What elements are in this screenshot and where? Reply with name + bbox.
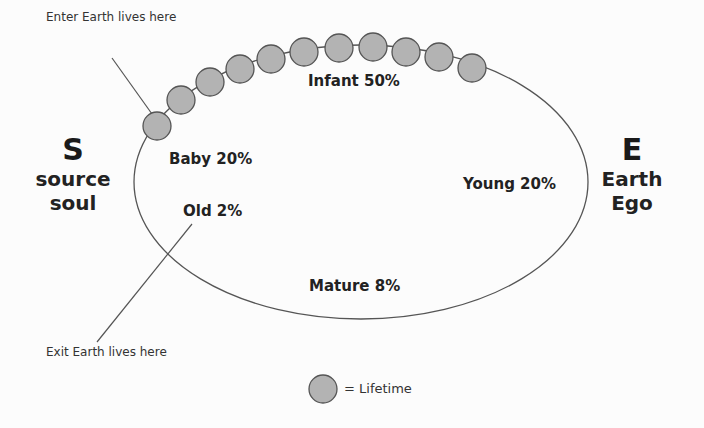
earth-letter: E xyxy=(592,132,672,167)
source-soul-pole: S source soul xyxy=(28,132,118,215)
legend-circle-icon xyxy=(309,375,337,403)
lifetime-circle xyxy=(257,45,285,73)
stage-old: Old 2% xyxy=(183,202,242,220)
lifetime-circle xyxy=(325,34,353,62)
legend-label: = Lifetime xyxy=(344,381,412,396)
earth-label: Earth xyxy=(592,167,672,191)
exit-pointer-line xyxy=(97,224,192,342)
lifetime-circle xyxy=(167,86,195,114)
enter-earth-label: Enter Earth lives here xyxy=(46,10,176,24)
exit-earth-label: Exit Earth lives here xyxy=(46,345,167,359)
earth-ego-pole: E Earth Ego xyxy=(592,132,672,215)
stage-infant: Infant 50% xyxy=(308,72,400,90)
lifetime-circle xyxy=(226,55,254,83)
stage-mature: Mature 8% xyxy=(309,277,400,295)
soul-label: soul xyxy=(28,191,118,215)
enter-pointer-line xyxy=(112,58,152,114)
lifetime-circle xyxy=(290,38,318,66)
stage-young: Young 20% xyxy=(463,175,556,193)
stage-baby: Baby 20% xyxy=(169,150,252,168)
source-label: source xyxy=(28,167,118,191)
source-letter: S xyxy=(28,132,118,167)
lifetime-circle xyxy=(359,33,387,61)
lifetime-circle xyxy=(392,38,420,66)
ego-label: Ego xyxy=(592,191,672,215)
lifetime-circle xyxy=(425,43,453,71)
lifetime-circle xyxy=(143,112,171,140)
lifetime-circle xyxy=(196,68,224,96)
lifetime-circle xyxy=(458,54,486,82)
